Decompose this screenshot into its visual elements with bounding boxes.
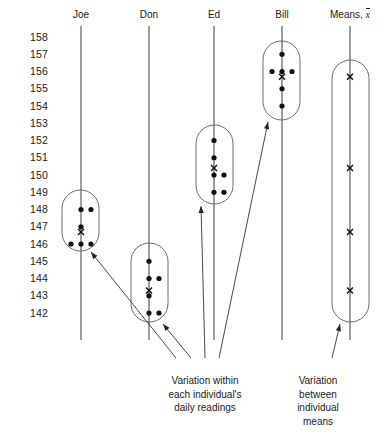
axis-lines-group [81,26,350,340]
data-point-ed-151 [211,155,216,160]
column-header-means: Means, x [330,9,370,20]
data-point-don-143 [146,293,151,298]
data-point-bill-156 [279,69,284,74]
column-header-don: Don [140,9,158,20]
data-point-joe-146 [88,241,93,246]
y-tick-label-157: 157 [14,49,48,60]
data-point-don-144 [146,276,151,281]
data-point-joe-147 [78,224,83,229]
data-point-ed-150 [221,172,226,177]
y-tick-label-158: 158 [14,32,48,43]
y-tick-label-155: 155 [14,83,48,94]
column-header-ed: Ed [208,9,220,20]
y-tick-label-142: 142 [14,308,48,319]
data-point-bill-156 [269,69,274,74]
x-bar-symbol: x [366,9,370,20]
y-tick-label-145: 145 [14,256,48,267]
arrow-to-bill [219,122,269,358]
data-point-ed-149 [221,190,226,195]
data-point-joe-146 [78,241,83,246]
chart-canvas: 1581571561551541531521511501491481471461… [0,0,383,433]
data-point-don-145 [146,259,151,264]
data-point-joe-146 [68,241,73,246]
mean-markers-group [78,74,353,294]
column-header-bill: Bill [275,9,288,20]
data-point-bill-156 [289,69,294,74]
y-tick-label-153: 153 [14,118,48,129]
y-tick-label-146: 146 [14,239,48,250]
y-tick-label-152: 152 [14,135,48,146]
data-point-bill-154 [279,103,284,108]
data-point-joe-148 [88,207,93,212]
annotation-between: Variation between individual means [286,374,351,428]
arrow-to-don [163,324,191,358]
y-tick-label-154: 154 [14,101,48,112]
data-point-don-142 [146,310,151,315]
arrow-to-ed [199,206,205,358]
capsules-group [62,41,369,322]
y-tick-label-144: 144 [14,273,48,284]
data-point-ed-152 [211,138,216,143]
y-tick-label-156: 156 [14,66,48,77]
data-point-don-144 [156,276,161,281]
column-header-joe: Joe [73,9,89,20]
y-tick-label-149: 149 [14,187,48,198]
y-tick-label-150: 150 [14,170,48,181]
y-tick-label-147: 147 [14,221,48,232]
data-point-ed-150 [211,172,216,177]
y-tick-label-148: 148 [14,204,48,215]
y-tick-label-143: 143 [14,290,48,301]
data-points-group [68,52,294,316]
data-point-ed-149 [211,190,216,195]
arrow-to-joe [91,252,176,358]
annotation-within: Variation within each individual's daily… [168,374,241,415]
data-point-don-142 [156,310,161,315]
data-point-bill-155 [279,86,284,91]
y-tick-label-151: 151 [14,152,48,163]
data-point-bill-157 [279,52,284,57]
data-point-joe-148 [78,207,83,212]
dot-plot-svg [0,0,383,433]
arrow-to-means [332,324,341,358]
